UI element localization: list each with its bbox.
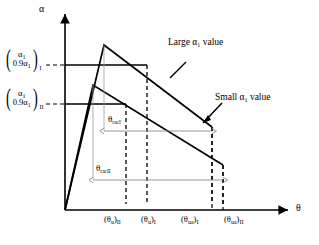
y-level-I-group-subscript: I	[39, 65, 41, 71]
y-level-label-II: ( α1 0.9α1 ) II	[4, 89, 43, 107]
x-tick-label-u-II: (θu)II	[104, 215, 121, 224]
diagram-root: α θ ( α1 0.9α1 ) I ( α1 0.9α1 ) II Large…	[0, 0, 319, 245]
y-level-stack-I: α1 0.9α1	[13, 50, 31, 68]
x-axis-label: θ	[296, 203, 301, 213]
x-tick-label-u-I: (θu)I	[141, 215, 156, 224]
x-tick-label-ua-II: (θua)II	[224, 215, 243, 224]
x-tick-label-ua-I: (θua)I	[181, 215, 198, 224]
annotation-theta-rac-I: θracI	[108, 115, 121, 124]
y-axis-label: α	[39, 4, 44, 14]
curve-label-large-alpha: Large α1 value	[168, 38, 223, 48]
y-level-I-denominator: 0.9α1	[13, 59, 31, 68]
curve-large-alpha	[65, 45, 212, 210]
y-level-II-denominator: 0.9α1	[13, 98, 31, 107]
y-level-label-I: ( α1 0.9α1 ) I	[4, 50, 41, 68]
leader-line-large-alpha	[170, 62, 186, 78]
annotation-theta-rac-II: θracII	[96, 164, 111, 173]
y-level-stack-II: α1 0.9α1	[13, 89, 31, 107]
y-level-II-group-subscript: II	[39, 104, 43, 110]
diagram-canvas	[0, 0, 319, 245]
curve-label-small-alpha: Small α1 value	[215, 93, 270, 103]
